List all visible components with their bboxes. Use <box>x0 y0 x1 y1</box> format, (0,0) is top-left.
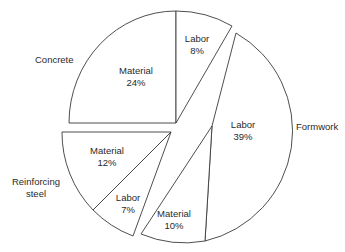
value-reinforcing-material: 12% <box>97 157 117 168</box>
group-label-formwork: Formwork <box>296 121 338 132</box>
label-formwork-labor: Labor <box>231 119 255 130</box>
value-formwork-material: 10% <box>164 220 184 231</box>
group-label-reinforcing-line2: steel <box>26 188 46 199</box>
group-label-concrete: Concrete <box>35 54 74 65</box>
label-formwork-material: Material <box>157 208 191 219</box>
exploded-pie-chart: Material 24% Labor 8% Concrete Labor 39%… <box>0 0 345 252</box>
value-concrete-material: 24% <box>126 77 146 88</box>
value-concrete-labor: 8% <box>190 45 204 56</box>
group-label-reinforcing-line1: Reinforcing <box>12 176 60 187</box>
label-reinforcing-material: Material <box>90 145 124 156</box>
value-reinforcing-labor: 7% <box>121 204 135 215</box>
label-reinforcing-labor: Labor <box>116 192 140 203</box>
value-formwork-labor: 39% <box>233 131 253 142</box>
group-concrete: Material 24% Labor 8% Concrete <box>35 11 232 123</box>
label-concrete-material: Material <box>119 65 153 76</box>
group-reinforcing-steel: Material 12% Labor 7% Reinforcing steel <box>12 132 171 236</box>
label-concrete-labor: Labor <box>185 33 209 44</box>
